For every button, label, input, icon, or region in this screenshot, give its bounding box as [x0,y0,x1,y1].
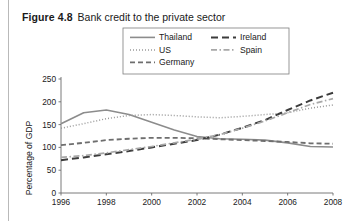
figure-title: Bank credit to the private sector [78,11,226,23]
figure-number: Figure 4.8 [22,11,73,23]
legend-label-thailand: Thailand [159,32,192,42]
x-tick-label: 2004 [233,197,252,207]
legend-label-us: US [159,45,171,55]
legend-label-spain: Spain [240,45,262,55]
y-tick-label: 200 [42,97,56,107]
line-chart: ThailandIrelandUSSpainGermany 0501001502… [0,24,357,221]
series-line-ireland [61,93,333,160]
x-axis: 1996199820002002200420062008 [52,193,343,207]
series-line-spain [61,99,333,158]
y-axis-title: Percentage of GDP [24,120,34,195]
x-tick-label: 2002 [188,197,207,207]
figure-page: Figure 4.8Bank credit to the private sec… [0,0,357,221]
figure-caption: Figure 4.8Bank credit to the private sec… [22,11,342,24]
x-tick-label: 1996 [52,197,71,207]
legend-label-ireland: Ireland [240,32,266,42]
x-tick-label: 1998 [97,197,116,207]
chart-container: ThailandIrelandUSSpainGermany 0501001502… [0,24,357,221]
y-tick-label: 150 [42,120,56,130]
chart-legend: ThailandIrelandUSSpainGermany [123,28,289,74]
x-tick-label: 2000 [142,197,161,207]
chart-series-group [61,93,333,160]
x-tick-label: 2008 [324,197,343,207]
y-axis: 050100150200250 [42,74,61,198]
x-tick-label: 2006 [278,197,297,207]
y-tick-label: 50 [47,165,57,175]
legend-label-germany: Germany [159,57,195,67]
y-tick-label: 250 [42,74,56,84]
y-tick-label: 100 [42,142,56,152]
